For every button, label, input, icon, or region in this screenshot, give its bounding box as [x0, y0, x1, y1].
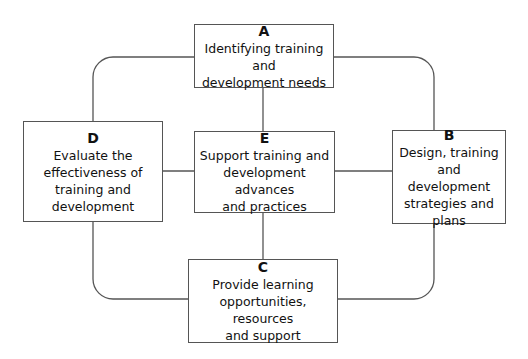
node-c-letter: C: [258, 258, 268, 276]
node-e: E Support training and development advan…: [194, 131, 335, 213]
node-b-letter: B: [444, 126, 455, 144]
edge-b-c: [337, 223, 434, 299]
node-a-text: Identifying training and development nee…: [195, 40, 333, 91]
node-e-text: Support training and development advance…: [195, 147, 334, 215]
node-a-letter: A: [259, 22, 270, 40]
edge-a-b: [333, 57, 434, 130]
node-c: C Provide learning opportunities, resour…: [188, 259, 338, 343]
node-b: B Design, training and development strat…: [392, 130, 506, 224]
node-d-text: Evaluate the effectiveness of training a…: [44, 147, 143, 215]
node-a: A Identifying training and development n…: [194, 24, 334, 88]
edge-d-c: [93, 221, 188, 299]
edge-a-d: [93, 57, 194, 121]
node-d-letter: D: [87, 129, 99, 147]
node-d: D Evaluate the effectiveness of training…: [23, 121, 163, 222]
node-c-text: Provide learning opportunities, resource…: [189, 276, 337, 344]
node-b-text: Design, training and development strateg…: [393, 144, 505, 229]
node-e-letter: E: [260, 129, 270, 147]
